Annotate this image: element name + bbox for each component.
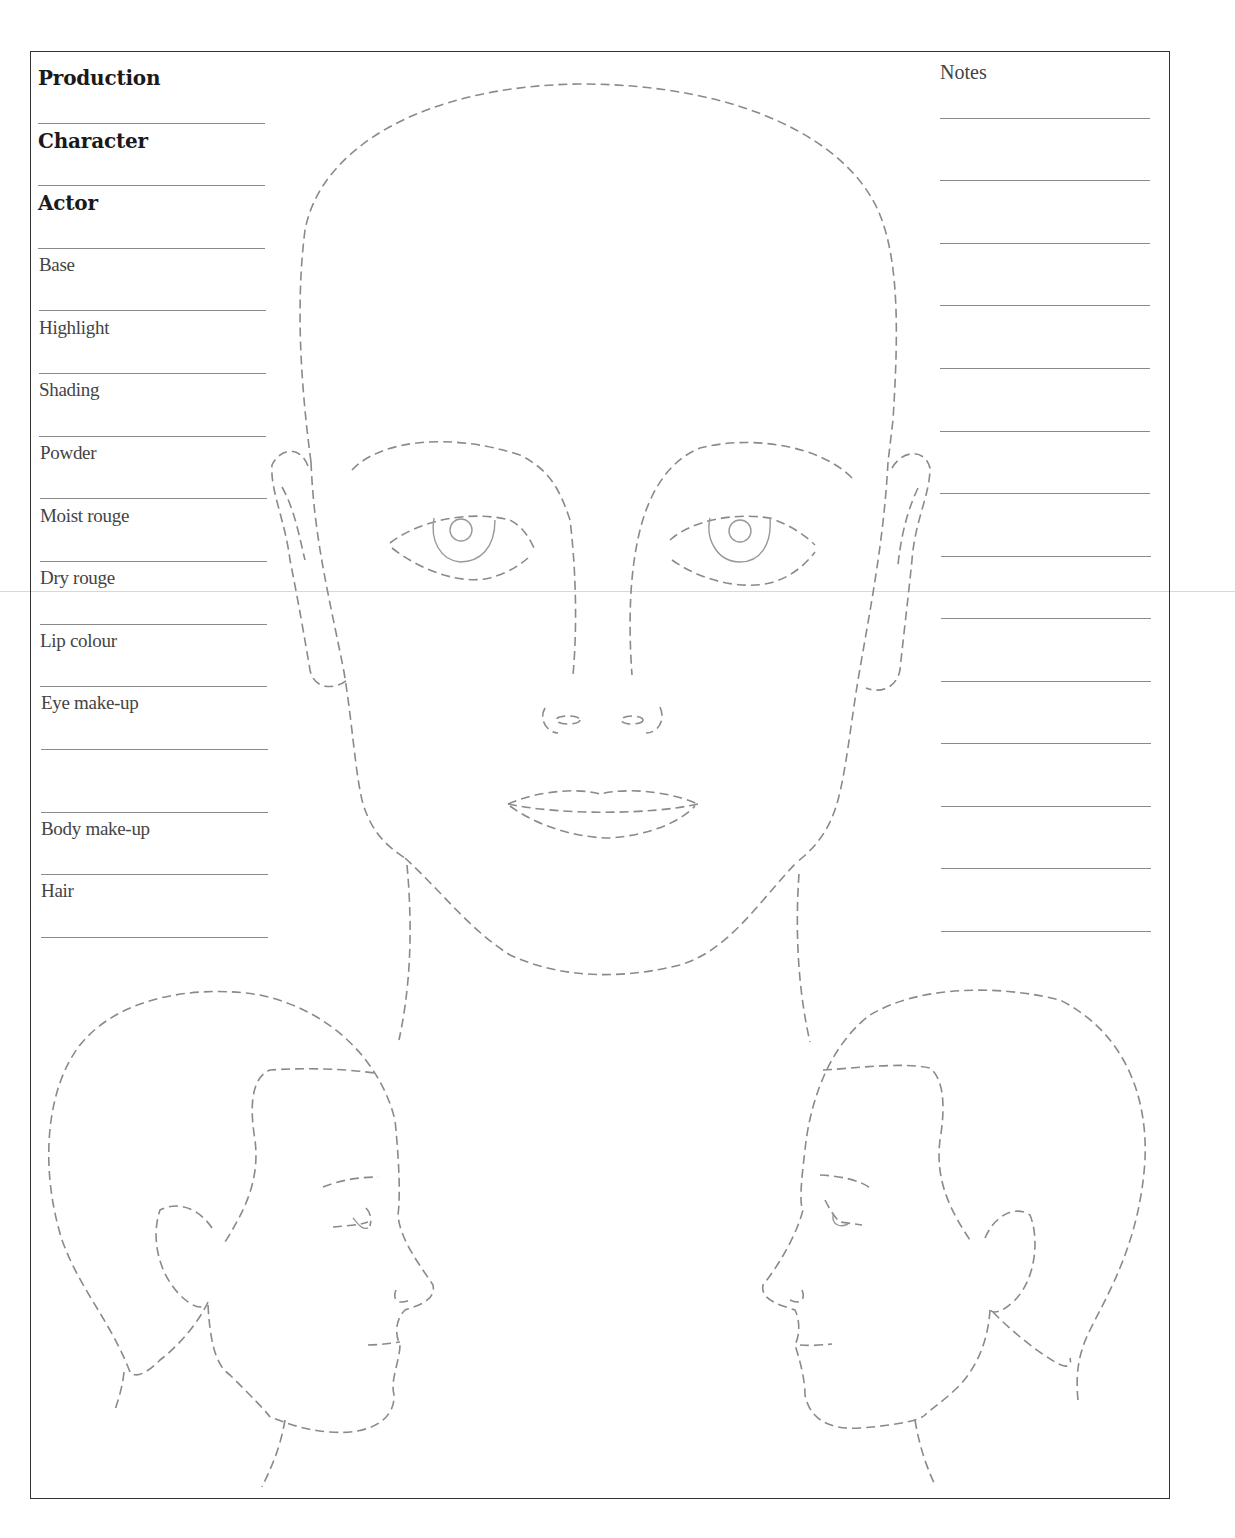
face-diagrams [0,0,1235,1538]
left-profile-outline [49,992,434,1487]
right-profile-outline [763,990,1146,1485]
front-face-outline [272,84,930,1042]
